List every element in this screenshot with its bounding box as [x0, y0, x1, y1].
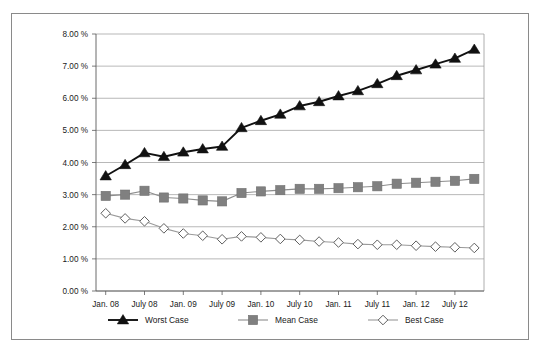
data-point-marker [353, 183, 362, 192]
data-point-marker [315, 184, 324, 193]
x-axis-tick-label: July 11 [365, 300, 391, 309]
y-axis-tick-label: 1.00 % [63, 255, 89, 264]
legend-item-label: Best Case [405, 315, 444, 325]
data-point-marker [392, 179, 401, 188]
data-point-marker [373, 182, 382, 191]
data-point-marker [412, 178, 421, 187]
legend-item-label: Mean Case [275, 315, 318, 325]
data-point-marker [295, 184, 304, 193]
data-point-marker [470, 174, 479, 183]
y-axis-tick-label: 4.00 % [63, 159, 89, 168]
x-axis-tick-label: Jan. 11 [325, 300, 352, 309]
data-point-marker [256, 187, 265, 196]
y-axis-tick-label: 8.00 % [63, 30, 89, 39]
x-axis-tick-label: July 08 [132, 300, 158, 309]
y-axis-tick-label: 7.00 % [63, 62, 89, 71]
y-axis-tick-label: 2.00 % [63, 223, 89, 232]
data-point-marker [450, 176, 459, 185]
legend-item-label: Worst Case [145, 315, 189, 325]
data-point-marker [237, 188, 246, 197]
data-point-marker [431, 177, 440, 186]
y-axis-tick-label: 0.00 % [63, 287, 89, 296]
y-axis-tick-label: 3.00 % [63, 191, 89, 200]
data-point-marker [276, 186, 285, 195]
x-axis-tick-label: July 12 [442, 300, 468, 309]
data-point-marker [159, 193, 168, 202]
data-point-marker [179, 194, 188, 203]
legend-marker-square-icon [248, 315, 257, 324]
x-axis-tick-label: Jan. 12 [403, 300, 430, 309]
legend-item-mean-case[interactable]: Mean Case [238, 315, 318, 325]
chart-figure-frame: 0.00 %1.00 %2.00 %3.00 %4.00 %5.00 %6.00… [11, 13, 529, 340]
data-point-marker [140, 186, 149, 195]
data-point-marker [121, 190, 130, 199]
x-axis-tick-label: Jan. 09 [170, 300, 197, 309]
data-point-marker [198, 196, 207, 205]
x-axis-tick-label: July 09 [209, 300, 235, 309]
x-axis-tick-label: Jan. 10 [247, 300, 274, 309]
data-point-marker [101, 191, 110, 200]
y-axis-tick-label: 5.00 % [63, 126, 89, 135]
line-chart: 0.00 %1.00 %2.00 %3.00 %4.00 %5.00 %6.00… [12, 14, 528, 339]
x-axis-tick-label: Jan. 08 [92, 300, 119, 309]
data-point-marker [334, 184, 343, 193]
y-axis-tick-label: 6.00 % [63, 94, 89, 103]
x-axis-tick-label: July 10 [287, 300, 313, 309]
data-point-marker [218, 197, 227, 206]
